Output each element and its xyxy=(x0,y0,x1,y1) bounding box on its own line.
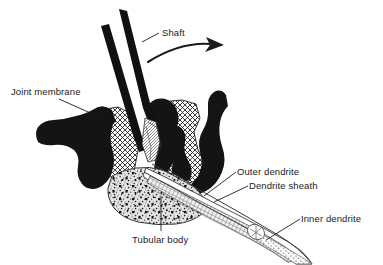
anatomical-diagram xyxy=(0,0,383,265)
label-tubular-body: Tubular body xyxy=(132,234,188,245)
label-inner-dendrite: Inner dendrite xyxy=(301,213,361,224)
figure-root: Shaft Joint membrane Outer dendrite Dend… xyxy=(0,0,383,265)
label-dendrite-sheath: Dendrite sheath xyxy=(249,180,318,191)
label-joint-membrane: Joint membrane xyxy=(11,86,81,97)
label-shaft: Shaft xyxy=(162,27,185,38)
label-outer-dendrite: Outer dendrite xyxy=(237,166,299,177)
